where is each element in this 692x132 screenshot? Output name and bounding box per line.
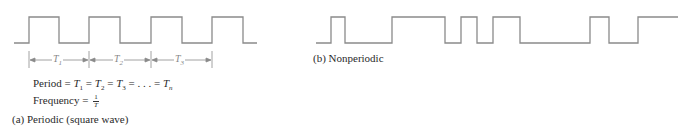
caption-nonperiodic: (b) Nonperiodic (313, 53, 384, 64)
frequency-fraction: 1 T (93, 94, 99, 109)
interval-label-t2: T2 (113, 54, 124, 67)
period-equation: Period = T1 = T2 = T3 = . . . = Tn (33, 78, 173, 92)
periodic-square-wave (14, 17, 257, 43)
caption-periodic: (a) Periodic (square wave) (12, 114, 128, 125)
frequency-equation: Frequency = 1 T (33, 94, 99, 109)
nonperiodic-wave (316, 17, 678, 43)
interval-label-t3: T3 (174, 54, 185, 67)
interval-label-t1: T1 (52, 54, 63, 67)
